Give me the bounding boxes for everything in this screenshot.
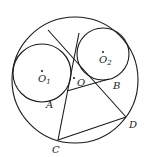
label-o1: O1 — [38, 73, 51, 86]
tangent-line-ac — [58, 33, 79, 140]
segment-ab — [67, 79, 109, 91]
label-b: B — [112, 80, 120, 91]
label-d: D — [128, 119, 137, 130]
center-dot-o1 — [41, 70, 43, 72]
tangent-line-bd — [48, 30, 126, 117]
label-c: C — [52, 144, 60, 155]
center-dot-o — [73, 77, 75, 79]
label-o2: O2 — [99, 54, 112, 67]
diagram-svg: O O1 O2 A B C D — [0, 0, 149, 157]
center-dot-o2 — [102, 51, 104, 53]
label-a: A — [45, 99, 53, 110]
label-o: O — [77, 77, 85, 88]
geometry-diagram: O O1 O2 A B C D — [0, 0, 149, 157]
